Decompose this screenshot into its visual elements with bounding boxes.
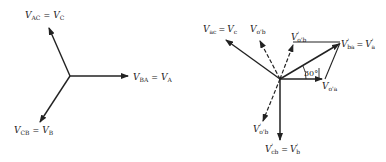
label-vba-va: VBA=VA <box>133 72 172 83</box>
label-vob-lower: V'o'b <box>253 122 268 135</box>
label-vob: Vo'b <box>250 24 266 35</box>
vac-phasor-arrow-right <box>226 40 280 79</box>
label-vba-prime-va-prime: V'ba=V'a <box>341 37 375 50</box>
label-voa: Vo'a <box>322 81 338 92</box>
left-phasor-diagram: VAC=VC VBA=VA VCB=VB <box>14 10 172 136</box>
label-vac-vc: VAC=VC <box>25 10 65 21</box>
vob-phasor-arrow-dashed <box>260 41 280 79</box>
vac-phasor-arrow <box>49 28 70 76</box>
vob-lower-phasor-arrow-dashed <box>263 79 280 121</box>
right-phasor-diagram: 30° Vac=Vc Vo'b V'o'b V'ba=V'a Vo'a V'o'… <box>203 24 375 155</box>
vcb-phasor-arrow <box>40 76 70 122</box>
angle-label: 30° <box>304 69 318 78</box>
label-vcb-vb: VCB=VB <box>14 125 54 136</box>
label-vob-prime: V'o'b <box>291 30 306 43</box>
label-vcb-prime-vb-prime: V'cb=V'b <box>265 142 300 155</box>
vob-prime-phasor-arrow-dashed <box>280 45 293 79</box>
label-vac-vc-right: Vac=Vc <box>203 24 238 35</box>
phasor-diagram-figure: VAC=VC VBA=VA VCB=VB 30° Vac=Vc Vo'b V'o… <box>0 0 386 162</box>
